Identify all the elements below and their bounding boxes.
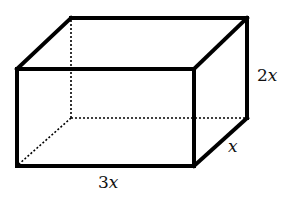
rectangular-prism-diagram (0, 0, 295, 199)
height-var: x (268, 65, 278, 85)
height-coef: 2 (257, 65, 268, 85)
width-coef: 3 (98, 172, 109, 192)
width-var: x (109, 172, 119, 192)
hidden-edges (19, 20, 245, 164)
edge-top-left-depth (17, 18, 71, 69)
depth-label: x (228, 138, 238, 155)
depth-var: x (228, 136, 238, 156)
edge-bottom-right-depth (194, 118, 247, 166)
width-label: 3x (98, 174, 118, 191)
edge-top-right-depth (194, 18, 247, 69)
hidden-edge-depth-bottom-left (19, 118, 71, 164)
height-label: 2x (257, 67, 277, 84)
visible-edges (17, 18, 247, 166)
